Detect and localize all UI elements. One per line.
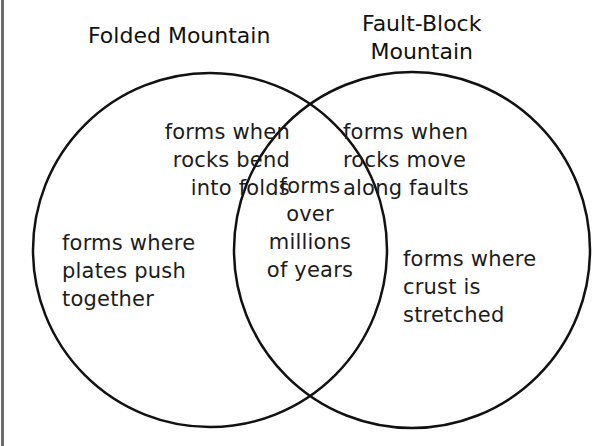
right-set-title: Fault-Block Mountain <box>362 10 481 66</box>
right-item-crust: forms where crust is stretched <box>403 245 536 329</box>
right-item-faults: forms when rocks move along faults <box>343 118 469 202</box>
left-set-title: Folded Mountain <box>88 22 270 50</box>
left-item-plates: forms where plates push together <box>62 229 195 313</box>
